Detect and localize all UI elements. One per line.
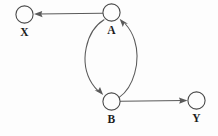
diagram-canvas: X A B Y bbox=[0, 0, 218, 136]
edge-b-to-a-curve bbox=[119, 24, 137, 97]
node-label-a: A bbox=[102, 25, 122, 37]
edge-a-to-x bbox=[34, 11, 103, 17]
edge-b-to-y-arrowhead bbox=[179, 97, 188, 103]
node-label-b: B bbox=[102, 114, 122, 126]
node-y-circle[interactable] bbox=[188, 92, 205, 109]
node-x-circle[interactable] bbox=[16, 6, 33, 23]
node-a-circle[interactable] bbox=[103, 4, 120, 21]
edge-b-to-y bbox=[121, 97, 188, 103]
edge-a-to-x-arrowhead bbox=[34, 11, 43, 17]
node-label-x: X bbox=[15, 27, 35, 39]
node-b-circle[interactable] bbox=[103, 93, 120, 110]
node-label-y: Y bbox=[187, 113, 207, 125]
edge-b-to-y-line bbox=[121, 101, 185, 102]
edge-b-to-a bbox=[119, 19, 137, 98]
edge-a-to-x-line bbox=[38, 13, 103, 14]
